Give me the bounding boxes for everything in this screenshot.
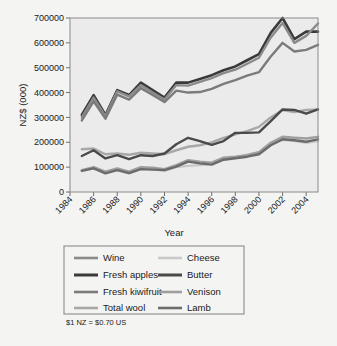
- legend-item-fresh-apples-label: Fresh apples: [103, 269, 158, 280]
- legend-item-fresh-kiwifruit-label: Fresh kiwifruit: [103, 286, 162, 297]
- y-tick-label: 0: [59, 187, 64, 197]
- chart-figure: 0100000200000300000400000500000600000700…: [0, 0, 337, 346]
- currency-footnote: $1 NZ = $0.70 US: [66, 318, 126, 327]
- y-axis-title: NZ$ (000): [17, 84, 28, 127]
- chart-legend: WineCheeseFresh applesButterFresh kiwifr…: [64, 246, 244, 314]
- x-axis-title: Year: [164, 227, 183, 238]
- y-tick-label: 600000: [34, 38, 64, 48]
- legend-item-total-wool-label: Total wool: [103, 302, 145, 313]
- legend-item-butter-label: Butter: [187, 269, 212, 280]
- y-tick-label: 300000: [34, 113, 64, 123]
- y-tick-label: 400000: [34, 88, 64, 98]
- plot-area: 0100000200000300000400000500000600000700…: [34, 13, 318, 215]
- legend-item-venison-label: Venison: [187, 286, 221, 297]
- legend-item-wine-label: Wine: [103, 252, 125, 263]
- y-tick-label: 100000: [34, 162, 64, 172]
- exports-line-chart: 0100000200000300000400000500000600000700…: [0, 0, 337, 346]
- legend-item-lamb-label: Lamb: [187, 302, 211, 313]
- y-tick-label: 200000: [34, 137, 64, 147]
- y-tick-label: 700000: [34, 13, 64, 23]
- legend-item-cheese-label: Cheese: [187, 252, 220, 263]
- y-tick-label: 500000: [34, 63, 64, 73]
